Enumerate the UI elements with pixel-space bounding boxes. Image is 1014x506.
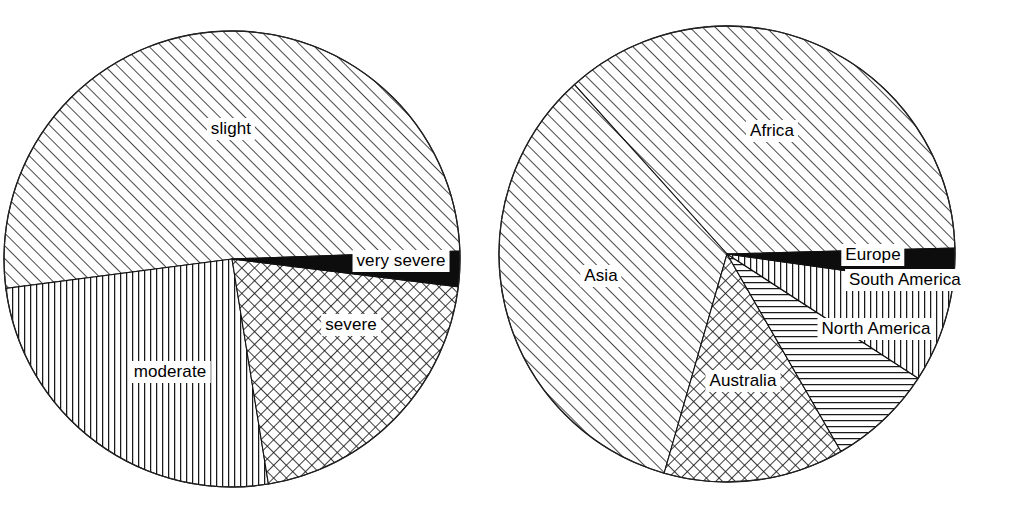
slice-label-north-america: North America <box>817 318 934 340</box>
slice-label-australia: Australia <box>705 370 780 392</box>
slice-label-moderate: moderate <box>130 361 211 383</box>
slice-label-very-severe: very severe <box>353 250 450 272</box>
pie-slice-severe[interactable] <box>232 259 458 484</box>
slice-label-severe: severe <box>321 314 381 336</box>
slice-label-africa: Africa <box>746 120 798 142</box>
pie-chart-figure: slightmoderateseverevery severeAfricaAsi… <box>0 0 1014 506</box>
slice-label-south-america: South America <box>845 269 965 291</box>
slice-label-europe: Europe <box>841 244 904 266</box>
slice-label-asia: Asia <box>580 265 621 287</box>
slice-label-slight: slight <box>207 118 255 140</box>
